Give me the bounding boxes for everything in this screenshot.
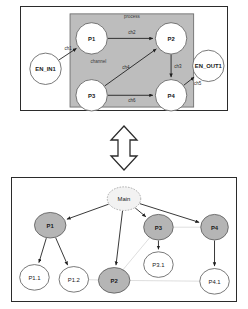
top-node-label-P3: P3 <box>88 93 96 99</box>
bottom-node-label-P3.1: P3.1 <box>152 262 164 268</box>
top-node-label-P2: P2 <box>167 36 175 42</box>
bottom-node-Main[interactable]: Main <box>107 187 140 211</box>
top-edge-label-ch2: ch2 <box>128 30 136 35</box>
top-edge-label-ch6: ch6 <box>128 98 136 103</box>
bottom-node-label-P4.1: P4.1 <box>208 279 220 285</box>
bottom-nodes: MainP1P3P4P1.1P1.2P2P3.1P4.1 <box>20 187 230 294</box>
bottom-edge-P1-to-P1.2 <box>56 238 68 265</box>
bottom-edge-Main-to-P3 <box>135 208 146 217</box>
top-node-EN_OUT1[interactable]: EN_OUT1 <box>193 50 224 81</box>
bottom-node-label-Main: Main <box>118 196 131 202</box>
bottom-node-P2[interactable]: P2 <box>98 268 129 294</box>
top-node-label-EN_IN1: EN_IN1 <box>35 66 56 72</box>
top-region-label-process: process <box>124 14 141 19</box>
bottom-node-P4[interactable]: P4 <box>201 214 229 240</box>
bottom-node-P1.2[interactable]: P1.2 <box>59 267 89 293</box>
bottom-node-P1[interactable]: P1 <box>34 212 65 238</box>
top-diagram-canvas: processchannel ch1ch2ch3ch4ch5ch6 EN_IN1… <box>21 7 227 110</box>
top-node-P2[interactable]: P2 <box>155 23 186 54</box>
bottom-link-P2-to-P4.1 <box>130 280 200 281</box>
top-node-label-EN_OUT1: EN_OUT1 <box>195 63 223 69</box>
top-edge-label-ch5: ch5 <box>194 81 202 86</box>
diagram-figure: processchannel ch1ch2ch3ch4ch5ch6 EN_IN1… <box>0 0 248 309</box>
bottom-edge-Main-to-P2 <box>116 211 123 265</box>
top-node-P4[interactable]: P4 <box>155 80 186 111</box>
top-edge-label-ch3: ch3 <box>174 64 182 69</box>
bottom-tree-edges <box>39 204 215 266</box>
top-edge-label-ch4: ch4 <box>122 65 130 70</box>
bidirectional-arrow <box>106 124 142 172</box>
bottom-node-P3.1[interactable]: P3.1 <box>144 252 174 278</box>
bottom-node-label-P2: P2 <box>111 278 119 284</box>
top-node-label-P1: P1 <box>88 36 96 42</box>
top-node-label-P4: P4 <box>167 93 175 99</box>
bottom-edge-Main-to-P1 <box>67 204 109 219</box>
bottom-node-label-P3: P3 <box>155 225 163 231</box>
top-node-EN_IN1[interactable]: EN_IN1 <box>30 53 61 84</box>
bottom-node-P4.1[interactable]: P4.1 <box>200 269 230 295</box>
bottom-node-label-P4: P4 <box>211 225 219 231</box>
top-region-label-channel: channel <box>91 59 107 64</box>
bottom-node-label-P1: P1 <box>47 223 55 229</box>
top-node-P3[interactable]: P3 <box>76 80 107 111</box>
top-edge-label-ch1: ch1 <box>64 46 72 51</box>
top-node-P1[interactable]: P1 <box>76 23 107 54</box>
top-process-panel: processchannel ch1ch2ch3ch4ch5ch6 EN_IN1… <box>20 6 228 111</box>
bottom-node-label-P1.1: P1.1 <box>28 275 40 281</box>
bottom-edge-P1-to-P1.1 <box>39 238 46 263</box>
bottom-hierarchy-panel: MainP1P3P4P1.1P1.2P2P3.1P4.1 <box>11 177 237 302</box>
bottom-diagram-canvas: MainP1P3P4P1.1P1.2P2P3.1P4.1 <box>12 178 236 301</box>
bottom-node-label-P1.2: P1.2 <box>68 277 80 283</box>
bottom-node-P1.1[interactable]: P1.1 <box>20 265 50 291</box>
bidirectional-arrow-icon <box>106 124 142 172</box>
bottom-node-P3[interactable]: P3 <box>144 214 174 240</box>
